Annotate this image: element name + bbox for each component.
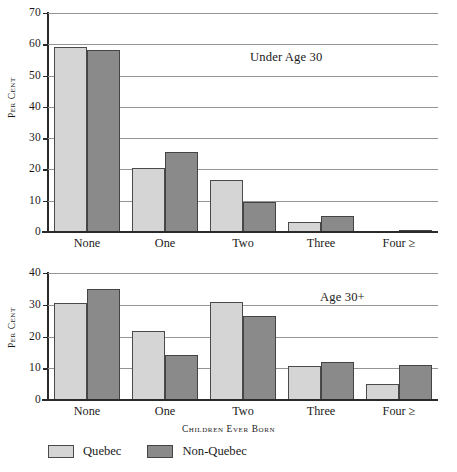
- bar-quebec-two: [210, 180, 243, 232]
- chart-panel-under-age-30: Per Cent Under Age 30 010203040506070 No…: [0, 0, 457, 258]
- y-tick-label: 0: [35, 394, 41, 406]
- x-axis-line-bottom: [42, 399, 438, 401]
- x-tick-label: None: [48, 236, 126, 251]
- x-tick-label: Three: [282, 404, 360, 419]
- bar-non-quebec-none: [87, 289, 120, 400]
- bar-non-quebec-three: [321, 216, 354, 232]
- bar-non-quebec-none: [87, 50, 120, 232]
- y-tick-label: 50: [29, 70, 41, 82]
- legend-label: Quebec: [83, 444, 121, 459]
- x-tick-label: Two: [204, 236, 282, 251]
- y-tick-label: 30: [29, 299, 41, 311]
- bar-groups-bottom: [48, 273, 438, 400]
- y-tick-label: 40: [29, 101, 41, 113]
- plot-area-bottom: 010203040: [48, 273, 438, 400]
- bar-non-quebec-three: [321, 362, 354, 400]
- x-axis-line-top: [42, 231, 438, 233]
- y-tick-label: 60: [29, 39, 41, 51]
- y-axis-title-bottom: Per Cent: [7, 307, 17, 348]
- legend-item-non-quebec: Non-Quebec: [147, 444, 246, 459]
- figure-root: Per Cent Under Age 30 010203040506070 No…: [0, 0, 457, 472]
- bar-group: [360, 13, 438, 232]
- legend: QuebecNon-Quebec: [48, 444, 247, 459]
- bar-group: [282, 273, 360, 400]
- x-tick-label: Two: [204, 404, 282, 419]
- bar-group: [126, 13, 204, 232]
- bar-non-quebec-one: [165, 355, 198, 400]
- legend-item-quebec: Quebec: [48, 444, 121, 459]
- bar-quebec-none: [54, 47, 87, 232]
- bar-non-quebec-two: [243, 316, 276, 400]
- y-axis-title-top: Per Cent: [7, 77, 17, 118]
- plot-area-top: 010203040506070: [48, 13, 438, 232]
- bar-quebec-three: [288, 366, 321, 400]
- bar-group: [48, 273, 126, 400]
- y-tick-label: 40: [29, 267, 41, 279]
- x-axis-title: Children Ever Born: [0, 424, 457, 434]
- bar-quebec-four-: [366, 384, 399, 401]
- bar-non-quebec-two: [243, 202, 276, 232]
- bar-quebec-none: [54, 303, 87, 400]
- bar-group: [282, 13, 360, 232]
- x-tick-label: Four ≥: [360, 404, 438, 419]
- x-tick-labels-top: NoneOneTwoThreeFour ≥: [48, 236, 438, 251]
- y-tick-label: 0: [35, 226, 41, 238]
- y-tick-label: 10: [29, 363, 41, 375]
- x-tick-label: Four ≥: [360, 236, 438, 251]
- x-tick-label: One: [126, 236, 204, 251]
- y-tick-label: 30: [29, 132, 41, 144]
- bar-groups-top: [48, 13, 438, 232]
- bar-non-quebec-one: [165, 152, 198, 232]
- bar-non-quebec-four-: [399, 365, 432, 400]
- bar-group: [204, 13, 282, 232]
- bar-group: [204, 273, 282, 400]
- y-tick-label: 70: [29, 7, 41, 19]
- x-tick-label: None: [48, 404, 126, 419]
- x-tick-label: Three: [282, 236, 360, 251]
- legend-swatch-dark: [147, 445, 173, 458]
- y-tick-label: 20: [29, 331, 41, 343]
- bar-group: [48, 13, 126, 232]
- x-tick-label: One: [126, 404, 204, 419]
- y-tick-label: 10: [29, 195, 41, 207]
- bar-quebec-one: [132, 331, 165, 400]
- bar-quebec-one: [132, 168, 165, 232]
- legend-swatch-light: [48, 445, 74, 458]
- x-tick-labels-bottom: NoneOneTwoThreeFour ≥: [48, 404, 438, 419]
- bar-group: [126, 273, 204, 400]
- bar-quebec-two: [210, 302, 243, 400]
- legend-label: Non-Quebec: [182, 444, 246, 459]
- y-tick-label: 20: [29, 164, 41, 176]
- bar-group: [360, 273, 438, 400]
